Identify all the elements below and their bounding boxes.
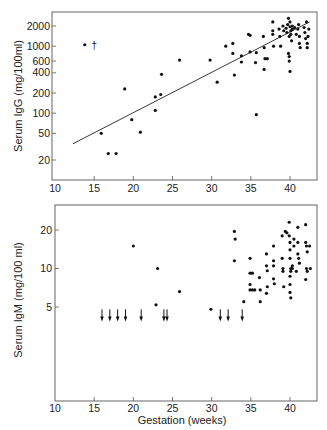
data-point: [159, 93, 162, 96]
igm-x-axis: 10152025303540: [49, 397, 296, 414]
data-point: [306, 250, 309, 253]
data-point: [297, 257, 300, 260]
x-tick-label: 40: [284, 402, 296, 414]
data-point: [305, 20, 308, 23]
data-point: [305, 267, 308, 270]
dagger-annotation: †: [91, 39, 97, 51]
data-point: [306, 42, 309, 45]
data-point: [295, 270, 298, 273]
x-tick-label: 30: [206, 182, 218, 194]
data-point: [259, 300, 262, 303]
data-point: [298, 262, 301, 265]
igg-plot-frame: [52, 12, 317, 180]
data-point: [295, 33, 298, 36]
data-point: [253, 288, 256, 291]
data-point: [258, 276, 261, 279]
data-point: [255, 51, 258, 54]
data-point: [288, 55, 291, 58]
data-point: [281, 257, 284, 260]
data-point: [307, 27, 310, 30]
data-point: [306, 46, 309, 49]
data-point: [306, 35, 309, 38]
data-point: [272, 264, 275, 267]
data-point: [289, 296, 292, 299]
y-tick-label: 2000: [27, 20, 51, 32]
data-point: [265, 264, 268, 267]
data-point: [233, 73, 236, 76]
data-point: [273, 282, 276, 285]
data-point: [288, 257, 291, 260]
x-tick-label: 25: [167, 182, 179, 194]
data-point: [107, 152, 110, 155]
igg-y-axis-label: Serum IgG (mg/100ml): [12, 40, 24, 152]
y-tick-label: 20: [40, 224, 52, 236]
x-tick-label: 35: [245, 402, 257, 414]
data-point: [291, 267, 294, 270]
data-point: [309, 267, 312, 270]
igg-x-axis: 10152025303540: [49, 176, 296, 194]
data-point: [233, 230, 236, 233]
data-point: [254, 61, 257, 64]
data-point: [216, 81, 219, 84]
x-tick-label: 40: [284, 182, 296, 194]
data-point: [305, 244, 308, 247]
down-arrow-icon: [162, 309, 166, 321]
data-point: [304, 241, 307, 244]
data-point: [279, 45, 282, 48]
x-tick-label: 10: [49, 402, 61, 414]
data-point: [233, 259, 236, 262]
data-point: [298, 35, 301, 38]
igm-plot-frame: [55, 205, 317, 401]
igg-panel: 205010020040060010002000 10152025303540 …: [12, 12, 317, 194]
data-point: [288, 70, 291, 73]
x-tick-label: 25: [167, 402, 179, 414]
data-point: [178, 290, 181, 293]
data-point: [240, 60, 243, 63]
data-point: [296, 226, 299, 229]
data-point: [255, 113, 258, 116]
data-point: [234, 237, 237, 240]
data-point: [100, 132, 103, 135]
data-point: [288, 275, 291, 278]
data-point: [248, 257, 251, 260]
igm-y-axis: 51020: [40, 224, 59, 313]
x-tick-label: 20: [127, 182, 139, 194]
data-point: [132, 244, 135, 247]
data-point: [266, 285, 269, 288]
igm-y-axis-label: Serum IgM (mg/100 ml): [12, 242, 24, 358]
igm-panel: 51020 10152025303540 Serum IgM (mg/100 m…: [12, 205, 317, 426]
down-arrow-icon: [116, 309, 120, 321]
data-point: [281, 267, 284, 270]
data-point: [123, 87, 126, 90]
x-tick-label: 20: [127, 402, 139, 414]
data-point: [308, 244, 311, 247]
data-point: [287, 17, 290, 20]
data-point: [209, 58, 212, 61]
y-tick-label: 600: [32, 55, 50, 67]
y-tick-label: 5: [46, 301, 52, 313]
data-point: [272, 45, 275, 48]
data-point: [290, 39, 293, 42]
data-point: [242, 300, 245, 303]
data-point: [288, 221, 291, 224]
data-point: [288, 283, 291, 286]
x-tick-label: 35: [245, 182, 257, 194]
down-arrow-icon: [226, 309, 230, 321]
data-point: [263, 46, 266, 49]
data-point: [286, 23, 289, 26]
data-point: [282, 285, 285, 288]
y-tick-label: 1000: [27, 40, 51, 52]
data-point: [304, 37, 307, 40]
down-arrow-icon: [100, 309, 104, 321]
data-point: [284, 27, 287, 30]
y-tick-label: 400: [32, 66, 50, 78]
down-arrow-icon: [124, 309, 128, 321]
data-point: [293, 26, 296, 29]
data-point: [265, 252, 268, 255]
data-point: [266, 269, 269, 272]
data-point: [292, 237, 295, 240]
y-tick-label: 10: [40, 262, 52, 274]
x-tick-label: 15: [88, 402, 100, 414]
data-point: [281, 24, 284, 27]
y-tick-label: 100: [32, 107, 50, 119]
